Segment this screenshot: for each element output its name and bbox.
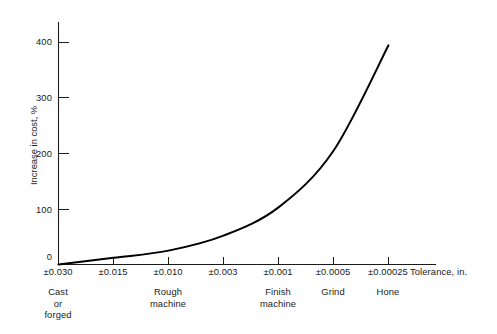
y-tick-label-300: 300	[18, 92, 52, 103]
y-tick-label-400: 400	[18, 36, 52, 47]
y-tick-label-200: 200	[18, 148, 52, 159]
process-label-rough-line1: Rough	[128, 286, 208, 298]
process-label-rough-line2: machine	[128, 298, 208, 310]
y-axis-title: Increase in cost, %	[28, 106, 39, 185]
x-axis-title: Tolerance, in.	[410, 266, 467, 277]
process-label-cast: Cast or forged	[18, 286, 98, 321]
process-label-rough-machine: Rough machine	[128, 286, 208, 309]
y-tick-label-0: 0	[18, 251, 52, 262]
process-label-cast-line2: or	[18, 298, 98, 310]
cost-curve	[59, 45, 389, 264]
y-tick-label-100: 100	[18, 204, 52, 215]
chart-canvas	[0, 0, 497, 334]
process-label-finish-line2: machine	[238, 298, 318, 310]
process-label-hone-line1: Hone	[348, 286, 428, 298]
process-label-cast-line1: Cast	[18, 286, 98, 298]
process-label-hone: Hone	[348, 286, 428, 298]
process-label-cast-line3: forged	[18, 309, 98, 321]
cost-vs-tolerance-chart: Increase in cost, % 400 300 200 100 0 ±0…	[0, 0, 497, 334]
